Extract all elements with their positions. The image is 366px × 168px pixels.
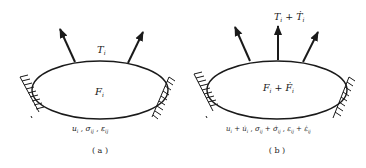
- traction-label-a: Ti: [97, 44, 106, 56]
- panel-b: Ti + Ṫi Fi + Ḟi ui + u̇i , σij + σ̇ij , …: [194, 11, 355, 155]
- fixed-support-left-a: [20, 75, 44, 118]
- caption-a: ( a ): [92, 146, 108, 155]
- panel-a: Ti Fi ui , σij , εij ( a ): [20, 29, 175, 155]
- traction-label-b: Ti + Ṫi: [274, 11, 305, 23]
- fixed-support-right-a: [152, 77, 175, 119]
- field-variables-label-b: ui + u̇i , σij + σ̇ij , εij + ε̇ij: [226, 125, 311, 134]
- traction-arrow-b-1: [235, 27, 250, 61]
- caption-b: ( b ): [269, 146, 285, 155]
- traction-arrow-a-1: [60, 29, 75, 62]
- body-force-label-a: Fi: [94, 86, 104, 98]
- traction-arrow-b-3: [303, 32, 318, 62]
- diagram-canvas: Ti Fi ui , σij , εij ( a ): [0, 0, 366, 168]
- field-variables-label-a: ui , σij , εij: [72, 124, 109, 135]
- body-force-label-b: Fi + Ḟi: [262, 82, 294, 94]
- fixed-support-left-b: [194, 72, 218, 118]
- traction-arrow-a-2: [128, 32, 143, 63]
